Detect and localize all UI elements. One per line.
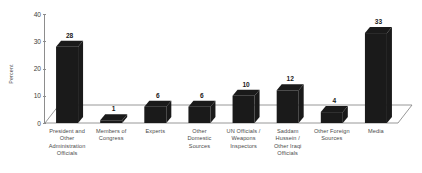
bar-column xyxy=(321,106,348,123)
bar-value-label: 6 xyxy=(182,92,221,99)
bar-front-face xyxy=(277,90,299,123)
category-label-line: Officials xyxy=(41,150,93,157)
category-label-line: Officials xyxy=(262,150,314,157)
bar-column xyxy=(144,101,171,123)
category-label-line: Congress xyxy=(85,135,137,142)
bar-value-label: 10 xyxy=(227,81,266,88)
bar-column xyxy=(188,101,215,123)
bar-chart: Percent 403020100 281661012433 President… xyxy=(0,0,422,173)
bar-front-face xyxy=(321,112,343,123)
category-label-line: Media xyxy=(350,128,402,135)
category-label-line: Administration xyxy=(41,143,93,150)
bar-value-label: 4 xyxy=(315,97,354,104)
bar-side-face xyxy=(78,41,83,123)
category-label-line: Other Iraqi xyxy=(262,143,314,150)
bar-column xyxy=(277,84,304,123)
bar-column xyxy=(365,27,392,123)
bar-front-face xyxy=(365,33,387,123)
bar-value-label: 33 xyxy=(359,18,398,25)
bar-front-face xyxy=(233,96,255,123)
bar-value-label: 12 xyxy=(271,75,310,82)
bar-front-face xyxy=(100,120,122,123)
bar-front-face xyxy=(188,107,210,123)
bar-side-face xyxy=(299,84,304,123)
bar-column xyxy=(100,114,127,123)
bar-value-label: 28 xyxy=(50,32,89,39)
bar-side-face xyxy=(387,27,392,123)
category-label-line: Sources xyxy=(306,135,358,142)
bar-value-label: 1 xyxy=(94,105,133,112)
bar-front-face xyxy=(144,107,166,123)
bar-column xyxy=(233,90,260,123)
category-label: Media xyxy=(350,128,402,135)
bar-front-face xyxy=(56,47,78,123)
bar-value-label: 6 xyxy=(138,92,177,99)
bar-column xyxy=(56,41,83,123)
